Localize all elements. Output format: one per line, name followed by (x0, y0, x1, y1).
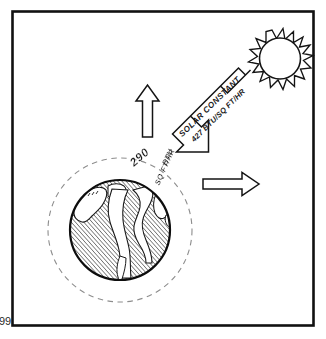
figure-root: 99 (0, 0, 326, 339)
page-number: 99 (0, 315, 11, 327)
diagram-canvas: 99 (0, 0, 326, 339)
sun-disc-icon (260, 38, 301, 79)
